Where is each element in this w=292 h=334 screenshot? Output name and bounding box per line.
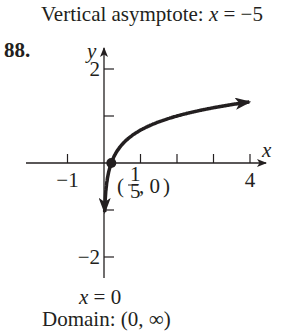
y-axis-label: y bbox=[85, 39, 97, 63]
asymptote-value: = 0 bbox=[88, 285, 121, 309]
log-graph: 4−12−2xy (15, 0) bbox=[0, 0, 292, 334]
paren-open: ( bbox=[117, 174, 124, 198]
x-tick-label: 4 bbox=[245, 168, 256, 192]
axis-labels: 4−12−2xy bbox=[56, 39, 272, 269]
domain-text: Domain: (0, ∞) bbox=[42, 307, 171, 332]
x-intercept-point bbox=[106, 158, 116, 168]
x-tick-label: −1 bbox=[56, 168, 78, 192]
log-curve bbox=[111, 102, 249, 163]
log-curve-lower bbox=[105, 163, 112, 212]
asymptote-variable: x bbox=[79, 285, 88, 309]
x-intercept-label: (15, 0) bbox=[117, 162, 170, 203]
annotation-rest: , 0 bbox=[139, 174, 160, 198]
paren-close: ) bbox=[163, 174, 170, 198]
x-axis-label: x bbox=[261, 138, 272, 162]
y-tick-label: −2 bbox=[78, 245, 100, 269]
